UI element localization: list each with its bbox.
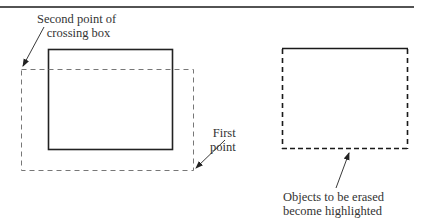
label-objects-erased-line2: become highlighted xyxy=(283,204,384,218)
crossing-box xyxy=(22,70,194,171)
label-second-point-line1: Second point of xyxy=(37,12,116,26)
label-first-point-line1: First xyxy=(210,126,236,140)
label-first-point: First point xyxy=(210,126,236,154)
highlighted-rectangle xyxy=(282,49,408,150)
arrow-objects-erased xyxy=(336,153,349,188)
label-objects-erased: Objects to be erased become highlighted xyxy=(283,190,384,218)
label-objects-erased-line1: Objects to be erased xyxy=(283,190,384,204)
label-second-point-line2: crossing box xyxy=(41,26,116,40)
object-rectangle xyxy=(49,50,173,150)
label-first-point-line2: point xyxy=(210,140,236,154)
label-second-point: Second point of crossing box xyxy=(37,12,116,40)
